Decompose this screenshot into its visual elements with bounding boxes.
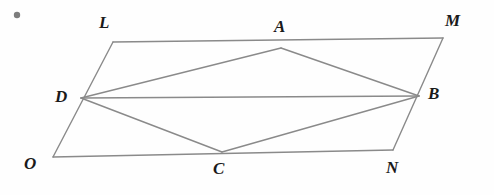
corner-dot bbox=[14, 12, 20, 18]
vertex-label-B: B bbox=[428, 85, 439, 102]
vertex-label-D: D bbox=[55, 88, 67, 105]
vertex-label-O: O bbox=[24, 155, 36, 172]
segment-AB bbox=[281, 48, 419, 96]
geometry-figure: LAMDBOCN bbox=[0, 0, 494, 195]
segments-group bbox=[53, 38, 443, 157]
side-LM bbox=[113, 38, 443, 42]
vertex-label-A: A bbox=[274, 18, 285, 35]
vertex-label-L: L bbox=[99, 14, 109, 31]
segment-BC bbox=[222, 96, 419, 152]
vertex-label-N: N bbox=[386, 159, 398, 176]
markers-group bbox=[14, 12, 20, 18]
diagonal-DB bbox=[81, 96, 419, 98]
segment-DA bbox=[81, 48, 281, 98]
vertex-label-M: M bbox=[445, 12, 460, 29]
segment-CD bbox=[81, 98, 222, 152]
geometry-canvas bbox=[0, 0, 494, 195]
vertex-label-C: C bbox=[213, 160, 224, 177]
